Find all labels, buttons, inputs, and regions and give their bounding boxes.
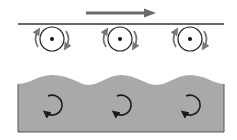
rotation-arrow-right-icon [204, 31, 206, 47]
rotation-arrow-right-icon [66, 31, 68, 47]
rotation-arrow-left-icon [104, 31, 106, 47]
rotation-arrow-left-icon [174, 31, 176, 47]
rotation-arrow-left-icon [36, 31, 38, 47]
roller-2 [104, 27, 137, 51]
fluid-layer [18, 75, 224, 132]
diagram-canvas [0, 0, 237, 140]
roller-3 [174, 27, 207, 51]
roller-1 [36, 27, 69, 51]
motion-arrow-icon [86, 9, 156, 18]
rotation-arrow-right-icon [134, 31, 136, 47]
